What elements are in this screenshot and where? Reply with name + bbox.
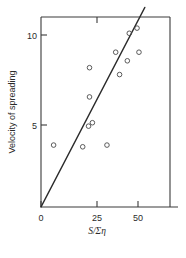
y-tick-label-10: 10 <box>27 31 37 41</box>
data-point <box>80 145 85 150</box>
x-axis-label: S/Ση <box>88 226 106 236</box>
data-point-group <box>51 26 141 149</box>
data-point <box>117 72 122 77</box>
x-tick-label-0: 0 <box>38 213 43 223</box>
axes-frame <box>41 17 178 207</box>
y-tick-marks <box>41 35 47 125</box>
plot-canvas: 10 5 0 25 50 S/Ση Velocity of spreading <box>0 0 186 258</box>
scatter-plot-figure: 10 5 0 25 50 S/Ση Velocity of spreading <box>0 0 186 258</box>
y-tick-label-5: 5 <box>32 121 37 131</box>
y-axis-label: Velocity of spreading <box>7 70 17 153</box>
x-tick-label-25: 25 <box>92 213 102 223</box>
data-point <box>90 120 95 125</box>
data-point <box>125 59 130 64</box>
data-point <box>135 26 140 31</box>
data-point <box>86 124 91 129</box>
regression-line <box>41 7 145 207</box>
data-point <box>87 65 92 70</box>
data-point <box>113 50 118 55</box>
data-point <box>51 143 56 148</box>
data-point <box>87 95 92 100</box>
data-point <box>137 50 142 55</box>
data-point <box>105 143 110 148</box>
x-tick-label-50: 50 <box>133 213 143 223</box>
